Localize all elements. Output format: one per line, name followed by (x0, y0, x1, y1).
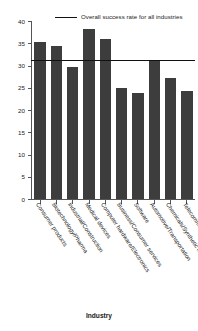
y-tick-label: 40 (18, 18, 25, 24)
bar[interactable] (116, 88, 127, 199)
bar-slot (113, 21, 129, 199)
bar[interactable] (149, 60, 160, 199)
overall-success-rate-reference-line (31, 60, 195, 61)
y-tick-label: 35 (18, 41, 25, 47)
bar-series (32, 21, 195, 199)
bar-slot (146, 21, 162, 199)
bar-slot (32, 21, 48, 199)
bar[interactable] (132, 93, 143, 199)
bar[interactable] (51, 46, 62, 199)
y-tick-label: 30 (18, 63, 25, 69)
bar-slot (81, 21, 97, 199)
y-tick-label: 15 (18, 130, 25, 136)
y-tick-label: 10 (18, 152, 25, 158)
bar[interactable] (181, 91, 192, 199)
bar-slot (130, 21, 146, 199)
chart-legend: Overall success rate for all industries (55, 14, 183, 20)
bar[interactable] (165, 78, 176, 199)
y-tick-label: 25 (18, 85, 25, 91)
bar[interactable] (34, 42, 45, 199)
bar[interactable] (83, 29, 94, 199)
bar[interactable] (100, 39, 111, 199)
bar-slot (97, 21, 113, 199)
bar-slot (48, 21, 64, 199)
x-axis-title: Industry (0, 312, 198, 319)
bar-chart: Overall success rate for all industries … (0, 0, 198, 331)
bar-slot (179, 21, 195, 199)
y-tick-label: 5 (22, 174, 25, 180)
legend-label: Overall success rate for all industries (81, 14, 183, 20)
y-tick-label: 20 (18, 107, 25, 113)
bar[interactable] (67, 67, 78, 199)
bar-slot (65, 21, 81, 199)
y-tick-label: 0 (22, 196, 25, 202)
legend-line-swatch-icon (55, 17, 77, 18)
bar-slot (162, 21, 178, 199)
x-axis-category-labels: Consumer productsBiotechnology/PharmaInd… (32, 202, 195, 298)
plot-area: 0510152025303540 (31, 21, 195, 200)
